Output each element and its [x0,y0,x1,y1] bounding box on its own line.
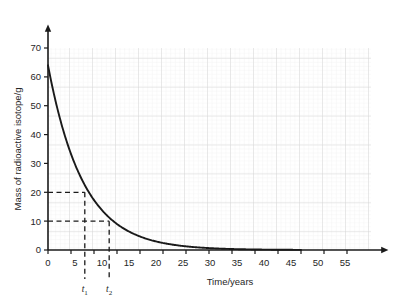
x-tick-label: 55 [340,257,351,268]
y-tick-label: 60 [30,71,41,82]
x-tick-label: 50 [313,257,324,268]
x-tick-label: 25 [178,257,189,268]
x-tick-label: 30 [205,257,216,268]
t1-label: t1 [82,284,89,297]
y-axis: 0 10 20 30 40 50 60 70 Mass of radioacti… [12,27,48,255]
y-tick-label: 50 [30,100,41,111]
x-tick-label: 10 [97,257,108,268]
plot-grid [48,48,371,250]
x-tick-label: 20 [151,257,162,268]
y-tick-label: 0 [36,244,41,255]
y-tick-label: 20 [30,187,41,198]
y-tick-label: 40 [30,129,41,140]
y-tick-label: 10 [30,216,41,227]
y-axis-title: Mass of radioactive isotope/g [12,87,23,210]
x-tick-label: 45 [286,257,297,268]
x-axis-tick-labels: 0 5 10 15 20 25 30 35 40 45 50 55 [45,257,350,268]
x-tick-label: 0 [45,257,50,268]
x-tick-label: 40 [259,257,270,268]
t2-label: t2 [106,284,113,297]
x-tick-label: 5 [72,257,77,268]
x-axis: 0 5 10 15 20 25 30 35 40 45 50 55 Time/y… [45,250,386,287]
y-tick-label: 30 [30,158,41,169]
x-axis-title: Time/years [207,276,254,287]
y-tick-label: 70 [30,42,41,53]
radioactive-decay-chart: 0 10 20 30 40 50 60 70 Mass of radioacti… [0,0,398,308]
x-tick-label: 35 [232,257,243,268]
y-axis-tick-labels: 0 10 20 30 40 50 60 70 [30,42,41,255]
x-tick-label: 15 [124,257,135,268]
